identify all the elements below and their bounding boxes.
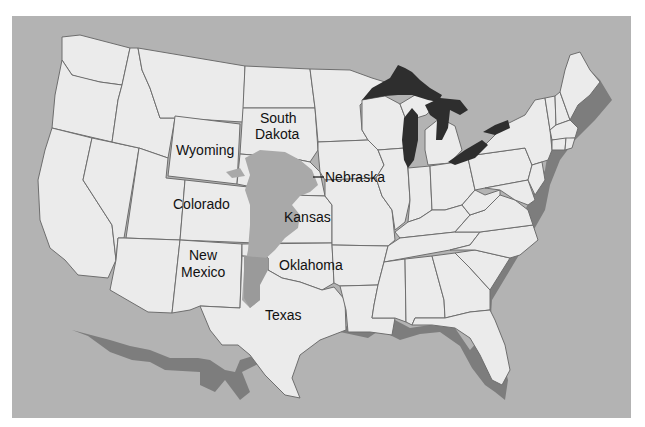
state-arizona bbox=[110, 238, 180, 313]
label-texas: Texas bbox=[265, 307, 302, 323]
us-map: South Dakota Wyoming Nebraska Colorado K… bbox=[0, 0, 645, 427]
label-south-dakota-line2: Dakota bbox=[255, 126, 300, 142]
state-north-dakota bbox=[243, 66, 315, 108]
label-nebraska: Nebraska bbox=[325, 169, 385, 185]
label-new-mexico-line2: Mexico bbox=[181, 264, 226, 280]
label-wyoming: Wyoming bbox=[176, 142, 234, 158]
label-kansas: Kansas bbox=[284, 209, 331, 225]
label-south-dakota-line1: South bbox=[260, 110, 297, 126]
label-oklahoma: Oklahoma bbox=[279, 257, 343, 273]
state-connecticut bbox=[552, 138, 566, 150]
state-rhode-island bbox=[565, 138, 575, 150]
label-colorado: Colorado bbox=[173, 196, 230, 212]
label-new-mexico-line1: New bbox=[189, 247, 218, 263]
